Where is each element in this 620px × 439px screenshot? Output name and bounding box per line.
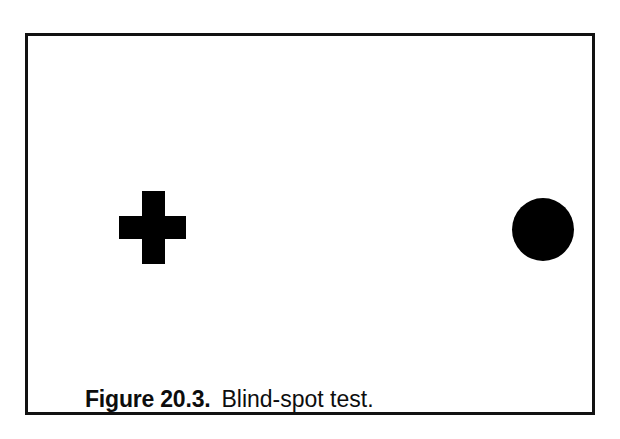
figure-page: Figure 20.3.Blind-spot test. xyxy=(0,0,620,439)
figure-frame: Figure 20.3.Blind-spot test. xyxy=(25,33,595,415)
plus-icon xyxy=(119,191,186,264)
figure-caption: Figure 20.3.Blind-spot test. xyxy=(85,385,374,413)
figure-caption-label: Figure 20.3. xyxy=(85,386,210,412)
plus-vertical-bar xyxy=(142,191,165,264)
circle-icon xyxy=(512,198,574,261)
figure-caption-text: Blind-spot test. xyxy=(221,386,373,412)
